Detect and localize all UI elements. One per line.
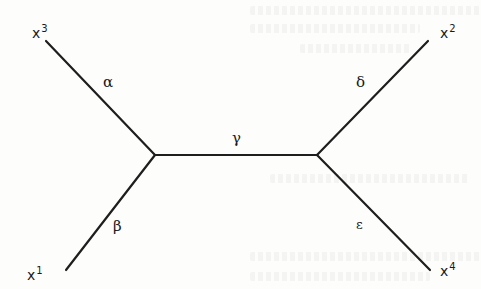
edge-label-alpha: α: [103, 75, 113, 90]
leaf-label-x3: x3: [32, 24, 48, 40]
leaf-base: x: [32, 25, 40, 41]
edge-beta: [66, 155, 155, 270]
leaf-label-x1: x1: [27, 266, 43, 282]
edge-epsilon: [317, 155, 430, 270]
edge-delta: [317, 41, 428, 155]
leaf-superscript: 2: [449, 23, 455, 34]
leaf-superscript: 4: [449, 261, 455, 272]
edge-label-beta: β: [113, 219, 122, 234]
edge-label-delta: δ: [356, 75, 365, 90]
edge-alpha: [46, 41, 155, 155]
leaf-base: x: [440, 263, 448, 279]
leaf-superscript: 3: [41, 23, 47, 34]
leaf-superscript: 1: [36, 265, 42, 276]
leaf-label-x2: x2: [440, 24, 456, 40]
leaf-base: x: [440, 25, 448, 41]
edge-label-epsilon: ε: [356, 218, 363, 231]
edge-label-gamma: γ: [232, 131, 241, 146]
diagram-page: x3 x1 x2 x4 α β γ δ ε: [0, 0, 481, 289]
leaf-base: x: [27, 267, 35, 283]
leaf-label-x4: x4: [440, 262, 456, 278]
